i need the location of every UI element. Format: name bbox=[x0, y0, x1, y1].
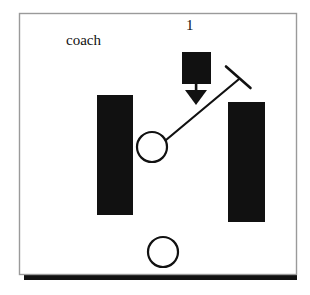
pivot-circle bbox=[137, 132, 167, 162]
figure-container: coach 1 bbox=[0, 0, 310, 295]
reference-numeral-label: 1 bbox=[186, 18, 194, 33]
figure-canvas bbox=[0, 0, 310, 295]
coach-label: coach bbox=[66, 33, 101, 48]
lower-circle bbox=[148, 237, 178, 267]
right-bar bbox=[228, 102, 265, 222]
load-block bbox=[182, 52, 211, 84]
left-bar bbox=[97, 95, 133, 215]
frame-shadow-bottom bbox=[24, 275, 297, 280]
